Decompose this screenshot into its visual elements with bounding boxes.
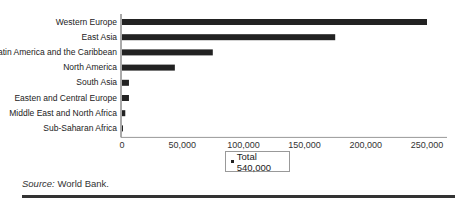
- category-label: South Asia: [76, 77, 117, 87]
- category-label: Easten and Central Europe: [14, 93, 117, 103]
- category-label: North America: [63, 62, 117, 72]
- x-tick-label: 50,000: [168, 140, 196, 150]
- bar: [122, 65, 175, 71]
- category-label: Sub-Saharan Africa: [43, 123, 117, 133]
- x-tick-label: 0: [119, 140, 124, 150]
- category-label: Western Europe: [56, 17, 118, 27]
- x-tick-label: 150,000: [288, 140, 321, 150]
- bar: [122, 110, 125, 116]
- bar: [122, 19, 427, 25]
- bar: [122, 80, 129, 86]
- legend-swatch: [231, 160, 234, 163]
- bottom-rule: [22, 195, 455, 198]
- bar: [122, 49, 213, 55]
- x-tick-label: 250,000: [411, 140, 444, 150]
- source-label: Source:: [22, 178, 55, 189]
- x-tick-label: 200,000: [350, 140, 383, 150]
- legend: Total 540,000: [225, 151, 290, 172]
- x-tick-labels: 050,000100,000150,000200,000250,000: [119, 140, 443, 150]
- bar: [122, 125, 123, 131]
- bar: [122, 95, 129, 101]
- category-label: East Asia: [82, 32, 118, 42]
- bars: [122, 19, 427, 131]
- x-tick-label: 100,000: [227, 140, 260, 150]
- category-label: Latin America and the Caribbean: [0, 47, 117, 57]
- bar-chart: Western EuropeEast AsiaLatin America and…: [0, 0, 467, 150]
- legend-label: Total 540,000: [237, 151, 289, 173]
- source-note: Source: World Bank.: [22, 178, 109, 189]
- bar: [122, 34, 335, 40]
- category-label: Middle East and North Africa: [9, 108, 117, 118]
- source-text: World Bank.: [55, 178, 109, 189]
- category-labels: Western EuropeEast AsiaLatin America and…: [0, 17, 117, 133]
